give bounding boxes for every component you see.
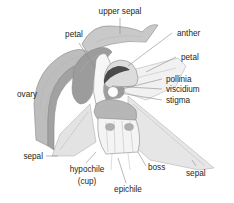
label-petal-left: petal <box>65 30 83 39</box>
right-sepal-shape <box>128 96 214 170</box>
pollinia-shape <box>108 87 119 98</box>
label-anther: anther <box>177 29 200 38</box>
boss-right-shape <box>125 124 134 131</box>
epichile-shape <box>98 118 140 154</box>
label-boss: boss <box>148 163 165 172</box>
label-ovary: ovary <box>17 90 38 99</box>
leader-epichile <box>118 158 126 183</box>
label-epichile: epichile <box>114 185 142 194</box>
label-sepal-left: sepal <box>23 152 43 161</box>
label-sepal-right: sepal <box>186 169 206 178</box>
label-pollinia: pollinia <box>166 75 192 84</box>
orchid-anatomy-figure: upper sepal petal anther petal pollinia … <box>0 0 234 203</box>
label-viscidium: viscidium <box>166 85 200 94</box>
label-petal-right: petal <box>181 53 199 62</box>
boss-left-shape <box>106 124 115 131</box>
label-upper-sepal: upper sepal <box>99 7 142 16</box>
label-hypochile-sub: (cup) <box>78 177 97 186</box>
left-sepal-shape <box>52 104 96 156</box>
orchid-diagram: upper sepal petal anther petal pollinia … <box>0 0 234 203</box>
pedicel-shape <box>111 153 130 170</box>
leader-hypochile <box>86 152 96 163</box>
label-stigma: stigma <box>166 96 191 105</box>
label-hypochile: hypochile <box>70 165 105 174</box>
